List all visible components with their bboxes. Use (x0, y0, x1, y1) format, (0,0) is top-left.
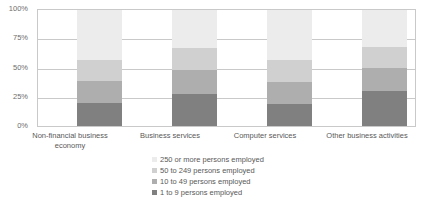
chart-title (0, 0, 426, 1)
bar-3 (362, 10, 407, 126)
bar-segment (267, 104, 312, 126)
y-axis-tick-0: 0% (0, 122, 28, 130)
bar-1 (172, 10, 217, 126)
legend-item[interactable]: 1 to 9 persons employed (152, 187, 264, 197)
legend-item[interactable]: 250 or more persons employed (152, 154, 264, 164)
y-axis-tick-25: 25% (0, 93, 28, 101)
legend-label: 250 or more persons employed (160, 155, 264, 164)
bar-0 (77, 10, 122, 126)
y-axis-tick-100: 100% (0, 5, 28, 13)
bar-segment (267, 60, 312, 82)
bar-segment (362, 47, 407, 68)
bar-segment (362, 68, 407, 91)
bar-segment (77, 10, 122, 60)
legend-swatch-icon (152, 190, 157, 195)
x-axis-label-1: Business services (120, 131, 220, 141)
legend-swatch-icon (152, 179, 157, 184)
bar-segment (172, 10, 217, 48)
legend-label: 50 to 249 persons employed (160, 166, 255, 175)
bar-segment (362, 91, 407, 126)
bar-segment (77, 103, 122, 126)
y-axis-tick-75: 75% (0, 34, 28, 42)
legend-item[interactable]: 10 to 49 persons employed (152, 176, 264, 186)
stacked-bar-chart: 100% 75% 50% 25% 0% Non-financial busine… (0, 0, 426, 205)
bar-segment (267, 82, 312, 104)
legend-label: 10 to 49 persons employed (160, 177, 250, 186)
bar-segment (172, 48, 217, 70)
x-axis-label-0: Non-financial business economy (10, 131, 130, 150)
x-axis-label-2: Computer services (215, 131, 315, 141)
bar-segment (77, 81, 122, 103)
x-axis-label-3: Other business activities (308, 131, 426, 141)
legend-label: 1 to 9 persons employed (160, 188, 242, 197)
legend-item[interactable]: 50 to 249 persons employed (152, 165, 264, 175)
y-axis-tick-50: 50% (0, 64, 28, 72)
bar-2 (267, 10, 312, 126)
bar-segment (77, 60, 122, 81)
chart-legend: 250 or more persons employed50 to 249 pe… (152, 154, 264, 197)
bar-segment (362, 10, 407, 47)
bar-segment (267, 10, 312, 60)
plot-area (37, 9, 416, 127)
legend-swatch-icon (152, 157, 157, 162)
bar-segment (172, 70, 217, 93)
legend-swatch-icon (152, 168, 157, 173)
bar-segment (172, 94, 217, 126)
